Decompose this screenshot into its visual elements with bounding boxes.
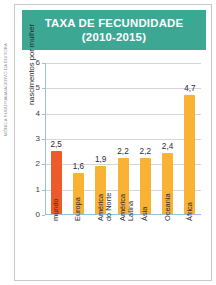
gridline xyxy=(45,63,201,64)
category-label-line: do Norte xyxy=(105,193,113,221)
plot-inner: 0123456 xyxy=(45,63,201,215)
chart-header: TAXA DE FECUNDIDADE (2010-2015) xyxy=(22,10,206,50)
bar xyxy=(184,95,195,214)
gridline xyxy=(45,88,201,89)
image-credit: MÔNICA SUGUIYAMA/ACERVO DA EDITORA xyxy=(1,46,10,136)
category-label-line: mundo xyxy=(52,198,60,221)
category-label: Ásia xyxy=(141,207,149,221)
y-axis-tick xyxy=(42,215,45,216)
category-label: Oceania xyxy=(164,193,172,221)
bar-value-label: 2,2 xyxy=(117,148,128,156)
plot-area: 0123456 2,51,61,92,22,22,44,7 mundoEurop… xyxy=(45,63,201,215)
gridline xyxy=(45,114,201,115)
category-label-line: África xyxy=(186,202,194,221)
category-label-line: Oceania xyxy=(164,193,172,221)
category-label: mundo xyxy=(52,198,60,221)
chart-title-line-1: TAXA DE FECUNDIDADE xyxy=(45,16,184,30)
category-label-line: Ásia xyxy=(141,207,149,221)
y-axis-tick-label: 1 xyxy=(36,186,40,194)
category-label: Américado Norte xyxy=(97,193,114,221)
category-label: África xyxy=(186,202,194,221)
y-axis-tick-label: 6 xyxy=(36,59,40,67)
y-axis-tick-label: 5 xyxy=(36,84,40,92)
bar-value-label: 2,2 xyxy=(140,148,151,156)
category-label-line: Latina xyxy=(127,194,135,221)
fertility-rate-chart-figure: MÔNICA SUGUIYAMA/ACERVO DA EDITORA TAXA … xyxy=(0,0,216,285)
chart-card: TAXA DE FECUNDIDADE (2010-2015) nascimen… xyxy=(14,4,212,281)
y-axis xyxy=(45,63,46,215)
bar-value-label: 1,6 xyxy=(73,163,84,171)
chart-title-line-2: (2010-2015) xyxy=(82,30,146,44)
y-axis-tick-label: 2 xyxy=(36,160,40,168)
y-axis-tick-label: 4 xyxy=(36,110,40,118)
y-axis-tick-label: 3 xyxy=(36,135,40,143)
bar-value-label: 1,9 xyxy=(95,156,106,164)
category-label-line: Europa xyxy=(74,197,82,221)
bar-value-label: 2,5 xyxy=(50,141,61,149)
bar-value-label: 4,7 xyxy=(184,85,195,93)
gridline xyxy=(45,139,201,140)
category-label: AméricaLatina xyxy=(119,194,136,221)
category-label: Europa xyxy=(74,197,82,221)
bar-value-label: 2,4 xyxy=(162,143,173,151)
y-axis-tick-label: 0 xyxy=(36,211,40,219)
